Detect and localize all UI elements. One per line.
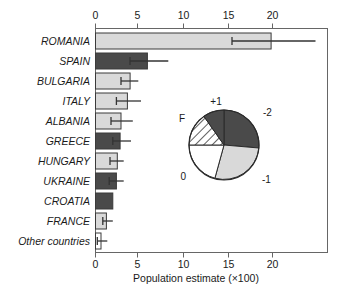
cat-label-ukraine: UKRAINE <box>43 175 91 187</box>
cat-label-croatia: CROATIA <box>44 195 90 207</box>
population-estimate-chart: 0 5 10 15 20 0 5 10 15 20 Population est… <box>0 0 338 288</box>
x-axis-title: Population estimate (×100) <box>133 272 259 284</box>
cat-label-albania: ALBANIA <box>45 115 90 127</box>
bottom-axis: 0 5 10 15 20 <box>93 253 279 271</box>
pie-label-plus-1: +1 <box>210 96 222 107</box>
inset-pie-chart: +1 -2 F 0 -1 <box>179 96 272 185</box>
top-tick-label-5: 5 <box>135 9 141 21</box>
top-tick-label-15: 15 <box>223 9 235 21</box>
category-labels: ROMANIA SPAIN BULGARIA ITALY ALBANIA GRE… <box>18 35 91 247</box>
cat-label-other-countries: Other countries <box>18 235 91 247</box>
cat-label-romania: ROMANIA <box>41 35 90 47</box>
cat-label-greece: GREECE <box>46 135 91 147</box>
top-axis: 0 5 10 15 20 <box>93 9 279 29</box>
pie-label-minus-2: -2 <box>263 107 272 118</box>
top-tick-label-0: 0 <box>93 9 99 21</box>
bottom-tick-label-10: 10 <box>178 258 190 270</box>
cat-label-bulgaria: BULGARIA <box>37 75 90 87</box>
cat-label-spain: SPAIN <box>59 55 90 67</box>
bottom-tick-label-5: 5 <box>135 258 141 270</box>
bottom-tick-label-20: 20 <box>267 258 279 270</box>
pie-label-zero: 0 <box>180 171 186 182</box>
bar-croatia <box>96 193 113 209</box>
cat-label-italy: ITALY <box>63 95 91 107</box>
top-tick-label-10: 10 <box>178 9 190 21</box>
bottom-tick-label-15: 15 <box>223 258 235 270</box>
cat-label-france: FRANCE <box>47 215 91 227</box>
pie-slice-minus-2 <box>224 110 259 148</box>
pie-label-f: F <box>179 113 185 124</box>
bottom-tick-label-0: 0 <box>93 258 99 270</box>
top-tick-label-20: 20 <box>267 9 279 21</box>
cat-label-hungary: HUNGARY <box>38 155 91 167</box>
pie-label-minus-1: -1 <box>262 174 271 185</box>
